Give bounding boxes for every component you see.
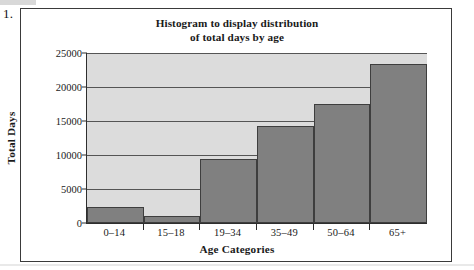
bar <box>144 216 201 223</box>
scan-artifact-bottom <box>0 264 474 266</box>
x-axis-tick-label: 19–34 <box>199 227 256 238</box>
x-axis-tick-label: 65+ <box>369 227 426 238</box>
x-axis-tick-label: 50–64 <box>313 227 370 238</box>
y-axis-tick-marks <box>21 53 91 223</box>
item-number: 1. <box>3 6 13 22</box>
x-axis-tick-label: 0–14 <box>86 227 143 238</box>
bar-slot <box>87 53 144 223</box>
bar <box>87 207 144 223</box>
bar-slot <box>370 53 427 223</box>
bar-slot <box>314 53 371 223</box>
bar-slot <box>257 53 314 223</box>
x-axis-title: Age Categories <box>21 243 453 255</box>
bar-series <box>87 53 427 223</box>
y-axis-title: Total Days <box>5 53 19 223</box>
bar <box>314 104 371 223</box>
bar <box>257 126 314 223</box>
bar <box>200 159 257 223</box>
plot-area <box>86 53 427 224</box>
x-axis-tick-label: 15–18 <box>143 227 200 238</box>
chart-title-line-1: Histogram to display distribution <box>156 17 319 29</box>
x-axis-tick-label: 35–49 <box>256 227 313 238</box>
x-axis-tick-labels: 0–1415–1819–3435–4950–6465+ <box>86 227 426 238</box>
chart-title-line-2: of total days by age <box>21 31 453 45</box>
bar-slot <box>200 53 257 223</box>
figure-box: Histogram to display distribution of tot… <box>20 8 452 262</box>
scan-artifact-top <box>0 0 36 5</box>
chart-title: Histogram to display distribution of tot… <box>21 17 453 44</box>
bar <box>370 64 427 223</box>
bar-slot <box>144 53 201 223</box>
